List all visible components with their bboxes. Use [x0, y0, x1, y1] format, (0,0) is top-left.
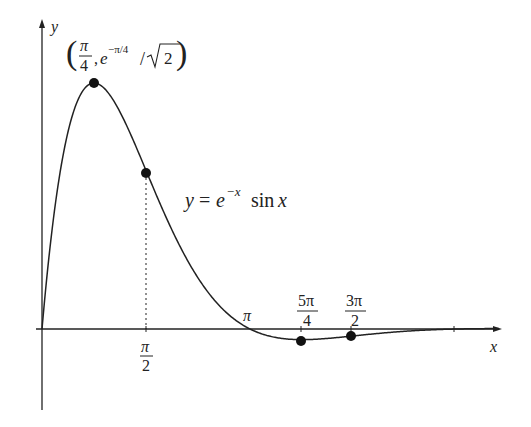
svg-text:=: = [199, 189, 210, 211]
function-curve [42, 83, 499, 340]
svg-text:π: π [141, 338, 150, 355]
tick-label-three-pi-over-2: 3π 2 [345, 292, 366, 329]
svg-text:/: / [140, 49, 145, 69]
svg-text:sin: sin [251, 189, 274, 211]
y-axis-arrow-icon [39, 19, 45, 28]
svg-text:2: 2 [142, 357, 150, 374]
svg-text:2: 2 [164, 49, 173, 68]
x-axis [36, 326, 502, 332]
svg-text:): ) [176, 34, 187, 72]
svg-text:−x: −x [226, 184, 241, 199]
tick-label-five-pi-over-4: 5π 4 [297, 292, 318, 329]
tick-label-pi-over-2: π 2 [140, 338, 153, 374]
function-plot: y x ( π 4 , e −π/4 / 2 ) y = e −x sin x [0, 0, 531, 427]
y-axis-label: y [49, 18, 59, 36]
pi-over-2-point [141, 168, 151, 178]
svg-text:e: e [216, 189, 225, 211]
svg-text:y: y [183, 189, 194, 212]
five-pi-over-4-point [296, 336, 306, 346]
svg-text:(: ( [66, 34, 77, 72]
peak-label: ( π 4 , e −π/4 / 2 ) [66, 34, 187, 74]
svg-text:3π: 3π [346, 292, 362, 309]
svg-text:5π: 5π [298, 292, 314, 309]
svg-text:e: e [100, 49, 108, 68]
svg-text:4: 4 [303, 312, 311, 329]
svg-text:2: 2 [351, 312, 359, 329]
svg-text:−π/4: −π/4 [108, 43, 129, 55]
three-pi-over-2-point [346, 331, 356, 341]
peak-point [89, 78, 99, 88]
y-axis [39, 19, 45, 410]
svg-text:4: 4 [80, 57, 88, 74]
svg-text:π: π [80, 37, 89, 54]
tick-label-pi: π [243, 307, 252, 324]
x-axis-label: x [489, 338, 497, 355]
svg-text:x: x [277, 189, 287, 211]
svg-text:,: , [94, 50, 98, 67]
function-label: y = e −x sin x [183, 184, 287, 212]
